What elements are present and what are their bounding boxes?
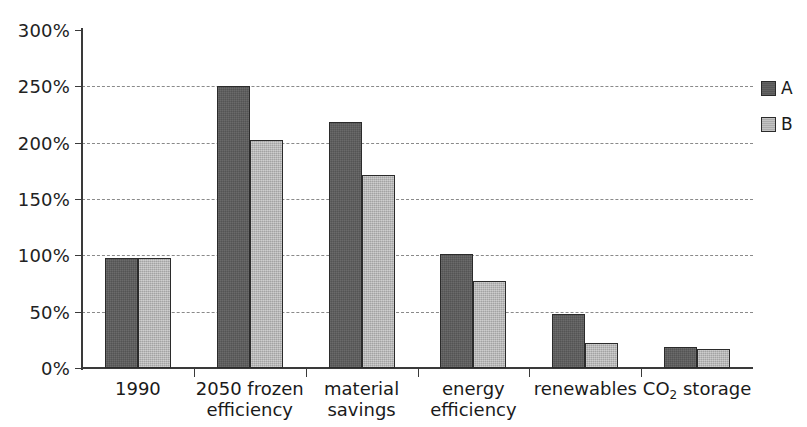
y-axis-tick-label: 200% bbox=[18, 132, 70, 153]
legend-label: B bbox=[781, 114, 793, 134]
y-axis-tick-label: 100% bbox=[18, 245, 70, 266]
bar-a-3 bbox=[440, 254, 473, 368]
bar-b-0 bbox=[138, 258, 171, 368]
y-axis-tick bbox=[75, 255, 83, 256]
bar-a-2 bbox=[329, 122, 362, 368]
y-axis-tick bbox=[75, 86, 83, 87]
y-axis-tick bbox=[75, 30, 83, 31]
y-axis-tick bbox=[75, 368, 83, 369]
legend-swatch-b bbox=[761, 117, 776, 132]
bar-chart: 0%50%100%150%200%250%300% 19902050 froze… bbox=[0, 0, 807, 427]
y-axis-tick-label: 300% bbox=[18, 20, 70, 41]
x-axis-tick bbox=[306, 369, 307, 377]
bar-a-1 bbox=[217, 86, 250, 368]
y-axis-tick-label: 0% bbox=[41, 358, 70, 379]
bar-b-5 bbox=[697, 349, 730, 368]
bar-a-0 bbox=[105, 258, 138, 368]
y-axis-tick-label: 50% bbox=[29, 301, 70, 322]
legend-item-b: B bbox=[761, 112, 793, 136]
legend-swatch-a bbox=[761, 81, 776, 96]
x-axis-tick bbox=[418, 369, 419, 377]
x-axis-tick bbox=[529, 369, 530, 377]
x-axis-category-label: energyefficiency bbox=[430, 378, 516, 420]
bar-b-4 bbox=[585, 343, 618, 368]
plot-area bbox=[82, 30, 753, 368]
gridline bbox=[82, 199, 753, 200]
bar-b-1 bbox=[250, 140, 283, 368]
x-axis-tick bbox=[641, 369, 642, 377]
x-axis-category-label: 1990 bbox=[115, 378, 161, 399]
gridline bbox=[82, 255, 753, 256]
y-axis-tick bbox=[75, 199, 83, 200]
bar-b-3 bbox=[473, 281, 506, 368]
x-axis-category-label: 2050 frozenefficiency bbox=[196, 378, 304, 420]
y-axis-tick bbox=[75, 143, 83, 144]
gridline bbox=[82, 312, 753, 313]
chart-legend: AB bbox=[761, 76, 793, 148]
bar-a-4 bbox=[552, 314, 585, 368]
gridline bbox=[82, 143, 753, 144]
x-axis-category-label: materialsavings bbox=[324, 378, 399, 420]
bar-b-2 bbox=[362, 175, 395, 368]
gridline bbox=[82, 86, 753, 87]
legend-label: A bbox=[781, 78, 793, 98]
y-axis-tick bbox=[75, 312, 83, 313]
x-axis-tick bbox=[194, 369, 195, 377]
bar-a-5 bbox=[664, 347, 697, 368]
x-axis-category-label: CO2 storage bbox=[643, 378, 752, 402]
legend-item-a: A bbox=[761, 76, 793, 100]
x-axis-category-label: renewables bbox=[534, 378, 637, 399]
y-axis-tick-label: 150% bbox=[18, 189, 70, 210]
y-axis-tick-label: 250% bbox=[18, 76, 70, 97]
